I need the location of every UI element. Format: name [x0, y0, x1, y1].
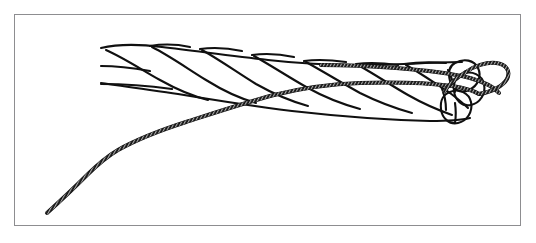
rope-end-wall-lower — [455, 103, 456, 123]
rope-illustration — [0, 0, 536, 243]
rope-arch-3 — [200, 48, 242, 51]
cord-lower-run-texture — [47, 83, 479, 213]
rope-outline-bottom — [101, 83, 470, 121]
illustration-strokes — [47, 45, 508, 213]
figure-root: Three-strand rope with whipping cord thr… — [0, 0, 536, 243]
rope-arch-4 — [252, 54, 294, 57]
rope-arch-5 — [304, 60, 346, 62]
rope-strand-line-1 — [106, 50, 208, 100]
cord-lower-run-base — [47, 83, 479, 213]
